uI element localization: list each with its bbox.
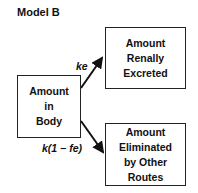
box-amount-eliminated-other-routes: Amount Eliminated by Other Routes [105,123,186,186]
box-line: Amount [126,36,166,51]
box-line: Renally [127,51,164,66]
rate-label-k-one-minus-fe: k(1 − fe) [42,142,82,154]
arrow-to-other [81,121,103,152]
box-amount-in-body: Amount in Body [17,75,81,138]
box-line: by Other [124,155,167,170]
box-line: Eliminated [119,140,172,155]
rate-label-ke: ke [76,60,88,72]
box-line: Excreted [123,66,167,81]
box-line: Routes [128,170,164,185]
box-line: Amount [29,84,69,99]
box-line: in [44,99,53,114]
box-line: Amount [126,125,166,140]
box-line: Body [36,114,62,129]
box-amount-renally-excreted: Amount Renally Excreted [105,27,186,89]
